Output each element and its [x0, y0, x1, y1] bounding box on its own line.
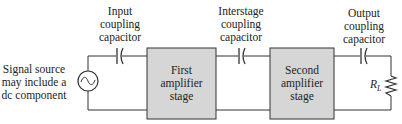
svg-text:amplifier: amplifier [160, 77, 202, 90]
svg-text:coupling: coupling [100, 18, 140, 31]
svg-text:capacitor: capacitor [343, 33, 385, 46]
svg-text:coupling: coupling [221, 18, 261, 31]
svg-text:stage: stage [290, 90, 314, 103]
svg-text:stage: stage [170, 90, 194, 103]
load-resistor-label: RL [369, 78, 382, 93]
output-capacitor-label: Output coupling capacitor [343, 7, 385, 46]
input-capacitor-label: Input coupling capacitor [99, 5, 141, 44]
load-resistor: RL [369, 76, 396, 96]
first-amplifier-stage: First amplifier stage [147, 48, 216, 119]
svg-text:First: First [171, 64, 193, 76]
svg-text:may include a: may include a [2, 76, 67, 89]
svg-text:Interstage: Interstage [218, 5, 263, 18]
svg-text:Output: Output [348, 7, 381, 20]
svg-text:amplifier: amplifier [281, 77, 323, 90]
svg-text:capacitor: capacitor [99, 31, 141, 44]
svg-text:capacitor: capacitor [220, 31, 262, 44]
svg-text:coupling: coupling [344, 20, 384, 33]
svg-text:Signal source: Signal source [3, 63, 65, 76]
svg-text:dc component: dc component [2, 89, 68, 102]
svg-text:Second: Second [285, 64, 319, 76]
amplifier-cascade-diagram: Signal source may include a dc component… [0, 0, 402, 124]
signal-source-label: Signal source may include a dc component [2, 63, 68, 102]
svg-text:Input: Input [108, 5, 133, 18]
ac-signal-source [78, 71, 98, 91]
resistor-zigzag-icon [386, 76, 396, 96]
interstage-capacitor-label: Interstage coupling capacitor [218, 5, 263, 44]
second-amplifier-stage: Second amplifier stage [270, 48, 334, 119]
circuit-wires [88, 56, 391, 110]
